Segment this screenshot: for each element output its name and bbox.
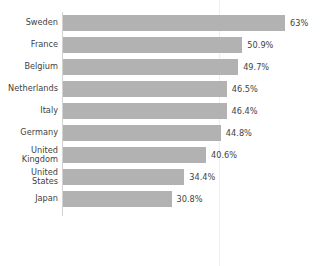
bar-track: 40.6% [63,144,323,166]
category-label: Belgium [0,62,58,71]
value-label: 46.5% [232,84,258,94]
bar [63,191,172,207]
bar [63,125,221,141]
bar-row: United Kingdom40.6% [0,144,323,166]
value-label: 30.8% [177,194,203,204]
bar [63,59,238,75]
category-label: Sweden [0,18,58,27]
value-label: 44.8% [226,128,252,138]
category-label: France [0,40,58,49]
value-label: 49.7% [243,62,269,72]
category-label: Netherlands [0,84,58,93]
chart-title-clipped: · · · · [70,0,240,3]
bar [63,15,285,31]
bar [63,37,242,53]
category-label: United Kingdom [0,146,58,164]
bar-row: Germany44.8% [0,122,323,144]
value-label: 46.4% [232,106,258,116]
bar [63,81,227,97]
bar-track: 49.7% [63,56,323,78]
bar-track: 46.4% [63,100,323,122]
bar-chart: · · · · Sweden63%France50.9%Belgium49.7%… [0,0,323,266]
bar-track: 34.4% [63,166,323,188]
bar-track: 44.8% [63,122,323,144]
bar-track: 46.5% [63,78,323,100]
bar-row: Sweden63% [0,12,323,34]
plot-area: Sweden63%France50.9%Belgium49.7%Netherla… [0,12,323,210]
category-label: United States [0,168,58,186]
bar-row: United States34.4% [0,166,323,188]
value-label: 40.6% [211,150,237,160]
bar-row: Japan30.8% [0,188,323,210]
bar-row: Belgium49.7% [0,56,323,78]
bar-row: Italy46.4% [0,100,323,122]
bar-track: 30.8% [63,188,323,210]
bar-row: Netherlands46.5% [0,78,323,100]
category-label: Italy [0,106,58,115]
category-label: Japan [0,194,58,203]
bar [63,147,206,163]
bar-track: 50.9% [63,34,323,56]
bar [63,169,184,185]
category-label: Germany [0,128,58,137]
value-label: 50.9% [247,40,273,50]
bar [63,103,227,119]
bar-track: 63% [63,12,323,34]
value-label: 34.4% [189,172,215,182]
bar-row: France50.9% [0,34,323,56]
value-label: 63% [290,18,308,28]
